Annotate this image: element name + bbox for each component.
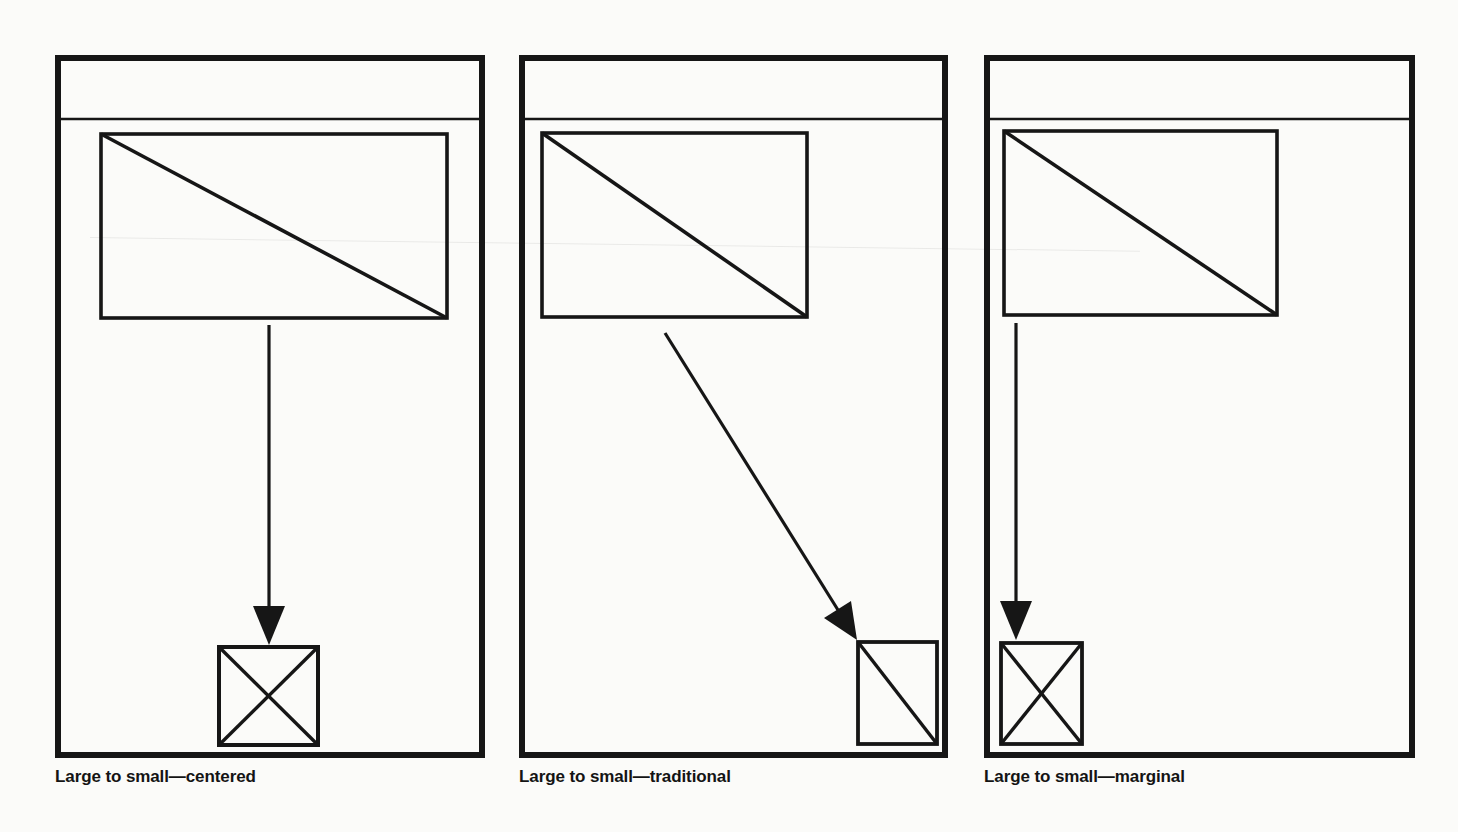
large-image-diagonal — [101, 134, 447, 318]
page-thumbnail-traditional — [519, 55, 948, 758]
small-image-diagonal-1 — [858, 642, 937, 744]
layout-panel-marginal: Large to small—marginal — [984, 55, 1415, 787]
panel-caption-centered: Large to small—centered — [55, 767, 485, 787]
layout-panel-centered: Large to small—centered — [55, 55, 485, 787]
panel-caption-traditional: Large to small—traditional — [519, 767, 948, 787]
flow-arrow-shaft — [665, 333, 838, 610]
large-image-diagonal — [1004, 131, 1277, 315]
flow-arrow-head — [253, 606, 285, 645]
page-thumbnail-centered — [55, 55, 485, 758]
page-thumbnail-marginal — [984, 55, 1415, 758]
panel-caption-marginal: Large to small—marginal — [984, 767, 1415, 787]
panel-row: Large to small—centered Large to small—t… — [55, 55, 1415, 787]
flow-arrow-head — [1000, 601, 1032, 640]
figure-canvas: Large to small—centered Large to small—t… — [0, 0, 1458, 832]
flow-arrow-head — [824, 601, 857, 640]
layout-panel-traditional: Large to small—traditional — [519, 55, 948, 787]
large-image-diagonal — [542, 133, 807, 317]
